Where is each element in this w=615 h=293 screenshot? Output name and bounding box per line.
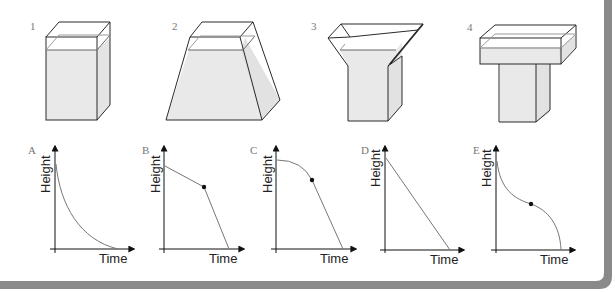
container-4: 4 <box>467 21 576 122</box>
container-number: 3 <box>311 20 317 32</box>
graph-letter: B <box>142 144 149 156</box>
height-curve <box>277 160 343 249</box>
container-number: 4 <box>467 21 473 33</box>
y-axis-label: Height <box>148 155 163 193</box>
graph-a: A Height Time <box>28 144 134 266</box>
graph-b: B Height Time <box>142 144 244 266</box>
x-axis-label: Time <box>540 252 568 267</box>
graph-letter: C <box>250 144 257 156</box>
diagram-stage: 1 2 3 <box>0 0 615 293</box>
y-axis-label: Height <box>368 149 383 187</box>
x-axis-label: Time <box>320 251 348 266</box>
height-curve <box>386 158 450 250</box>
y-axis-label: Height <box>38 155 53 193</box>
height-curve <box>165 166 229 249</box>
breakpoint-dot <box>529 202 533 206</box>
x-axis-label: Time <box>430 252 458 267</box>
height-curve <box>56 164 118 249</box>
graph-e: E Height Time <box>473 144 575 267</box>
breakpoint-dot <box>202 185 206 189</box>
x-axis-label: Time <box>99 251 127 266</box>
y-axis-label: Height <box>260 155 275 193</box>
container-3: 3 <box>311 20 423 121</box>
height-curve <box>497 161 561 250</box>
panel-frame <box>0 0 612 289</box>
y-axis-label: Height <box>479 149 494 187</box>
x-axis-label: Time <box>209 251 237 266</box>
container-1: 1 <box>30 20 110 120</box>
graph-letter: A <box>28 144 36 156</box>
container-2: 2 <box>166 20 280 120</box>
container-number: 2 <box>172 20 178 32</box>
breakpoint-dot <box>310 178 314 182</box>
graph-c: C Height Time <box>250 144 356 266</box>
container-number: 1 <box>30 20 36 32</box>
graph-d: D Height Time <box>361 144 464 267</box>
diagram-canvas: 1 2 3 <box>0 0 615 293</box>
